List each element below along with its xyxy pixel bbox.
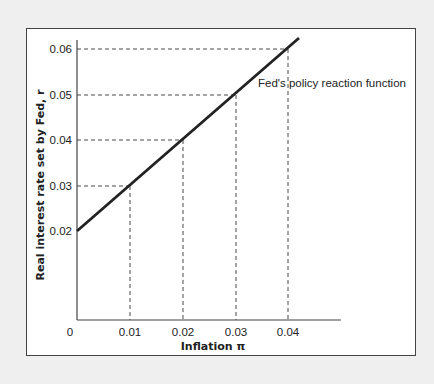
policy-reaction-line bbox=[77, 38, 299, 231]
x-tick-label: 0.04 bbox=[277, 326, 300, 338]
y-tick-label: 0.03 bbox=[50, 180, 72, 192]
y-tick-label: 0.02 bbox=[50, 225, 72, 237]
y-tick-label: 0.06 bbox=[50, 43, 72, 55]
x-tick-label: 0.03 bbox=[225, 326, 247, 338]
y-tick-label: 0.04 bbox=[50, 134, 73, 146]
guide-lines bbox=[77, 49, 288, 320]
y-axis-title: Real interest rate set by Fed, r bbox=[34, 89, 47, 281]
chart-svg: 0.06 0.05 0.04 0.03 0.02 0 0.01 0.02 0.0… bbox=[0, 0, 434, 384]
x-tick-label: 0.01 bbox=[119, 326, 141, 338]
origin-label: 0 bbox=[67, 326, 73, 338]
curve-annotation: Fed's policy reaction function bbox=[258, 77, 406, 89]
y-tick-label: 0.05 bbox=[50, 89, 72, 101]
x-axis-title: Inflation π bbox=[181, 340, 246, 353]
x-tick-label: 0.02 bbox=[172, 326, 194, 338]
